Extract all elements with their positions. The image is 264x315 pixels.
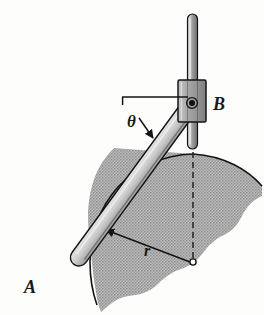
label-point-a: A bbox=[23, 277, 36, 297]
mechanism-figure: B A θ r bbox=[0, 0, 264, 315]
shaded-cam-region bbox=[88, 148, 262, 312]
label-point-b: B bbox=[212, 94, 225, 114]
cam-region-fill bbox=[88, 148, 262, 312]
label-angle-theta: θ bbox=[127, 112, 136, 131]
pin-core bbox=[189, 100, 195, 106]
theta-leader-arrow bbox=[139, 118, 153, 138]
figure-canvas: B A θ r bbox=[0, 0, 264, 315]
center-point-o bbox=[190, 259, 196, 265]
label-radius-r: r bbox=[144, 242, 151, 259]
